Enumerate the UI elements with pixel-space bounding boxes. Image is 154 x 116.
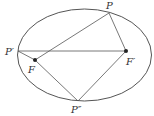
ellipse (18, 9, 152, 101)
label-p-prime: P′ (4, 46, 15, 57)
segment-f-p (35, 13, 109, 60)
label-f: F (27, 64, 36, 75)
segment-p-f-prime (109, 13, 126, 51)
focus-f-prime-dot (124, 49, 128, 53)
label-p-double-prime: P″ (70, 104, 82, 115)
focus-f-dot (33, 58, 37, 62)
label-f-prime: F′ (125, 56, 136, 67)
ellipse-diagram: P P′ F F′ P″ (0, 0, 154, 116)
segment-p-prime-f (18, 51, 35, 60)
label-p: P (105, 0, 113, 11)
segment-f-p-double-prime (35, 60, 78, 101)
segment-p-double-prime-f-prime (78, 51, 126, 101)
